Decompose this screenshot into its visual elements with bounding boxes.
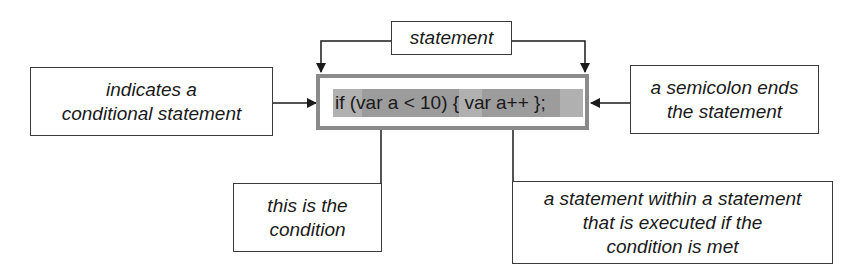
statement-arrow-left [321,41,391,72]
condition-annotation: this is the condition [267,194,347,242]
inner-statement-annotation: a statement within a statement that is e… [544,187,802,259]
semicolon-annotation-box: a semicolon ends the statement [630,65,819,134]
statement-label: statement [410,26,493,50]
code-line: if (var a < 10) { var a++ }; [335,89,546,117]
code-example-box: if (var a < 10) { var a++ }; [316,74,589,130]
conditional-annotation: indicates a conditional statement [62,78,242,126]
semicolon-annotation: a semicolon ends the statement [651,76,799,124]
condition-annotation-box: this is the condition [233,183,382,252]
inner-statement-annotation-box: a statement within a statement that is e… [512,181,833,264]
statement-arrow-right [512,41,585,72]
code-close-semicolon: }; [529,92,546,113]
statement-label-box: statement [391,21,512,55]
code-if-keyword: if [335,92,350,113]
code-condition: (var a < 10) [350,92,448,113]
conditional-annotation-box: indicates a conditional statement [30,67,273,136]
code-inner-statement: var a++ [464,92,528,113]
code-open-brace: { [447,92,464,113]
